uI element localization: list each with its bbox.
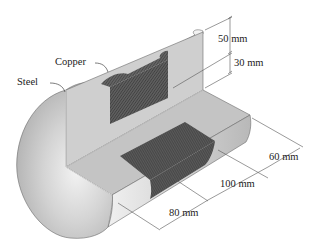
dimension-50mm-label: 50 mm	[218, 33, 247, 44]
cylinder-cutaway-diagram: Copper Steel 50 mm 30 mm 60 mm 100 mm 80…	[0, 0, 323, 245]
copper-label: Copper	[55, 56, 86, 67]
steel-body	[17, 30, 251, 239]
dimension-80mm-label: 80 mm	[169, 207, 198, 218]
dimension-30mm-label: 30 mm	[234, 57, 263, 68]
steel-label: Steel	[17, 76, 38, 87]
dimension-100mm-label: 100 mm	[220, 178, 255, 189]
dimension-60mm-label: 60 mm	[269, 151, 298, 162]
copper-leader	[95, 63, 108, 72]
